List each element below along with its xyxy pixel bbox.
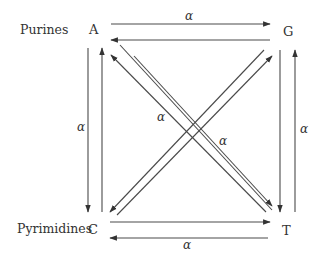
alpha-label-right: α <box>300 122 308 136</box>
alpha-label-diag-gc: α <box>219 134 227 148</box>
pyrimidines-label: Pyrimidines <box>17 221 92 236</box>
substitution-diagram: Purines Pyrimidines A G C T α α α α α α <box>0 0 321 260</box>
node-t: T <box>282 223 291 238</box>
node-a: A <box>88 22 99 37</box>
edge-c-to-g <box>117 56 272 215</box>
alpha-label-top: α <box>185 9 193 23</box>
edge-t-to-a <box>111 55 266 212</box>
alpha-label-bottom: α <box>183 238 191 252</box>
edge-a-to-t-arrow <box>134 56 272 206</box>
purines-label: Purines <box>20 22 68 37</box>
alpha-label-diag-at: α <box>157 110 165 124</box>
edge-g-to-c <box>110 50 264 212</box>
node-g: G <box>283 24 293 39</box>
node-c: C <box>88 222 98 237</box>
alpha-label-left: α <box>77 120 85 134</box>
edge-a-to-t <box>120 45 272 210</box>
